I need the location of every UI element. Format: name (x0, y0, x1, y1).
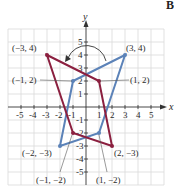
x-axis-label: x (168, 101, 174, 112)
svg-text:5: 5 (149, 110, 154, 120)
label-neg1-2: (−1, 2) (12, 75, 37, 85)
x-tick-labels: -5 -4 -3 -2 -1 1 2 3 4 5 (16, 110, 154, 120)
rotation-arrow-icon (68, 46, 106, 61)
svg-text:-1: -1 (76, 115, 84, 125)
svg-text:4: 4 (136, 110, 141, 120)
blue-quadrilateral (60, 55, 125, 146)
svg-text:1: 1 (97, 110, 102, 120)
label-1-2: (1, 2) (130, 75, 150, 85)
label-neg2-neg3: (−2, −3) (22, 148, 52, 158)
label-neg1-neg2: (−1, −2) (36, 175, 66, 185)
svg-text:4: 4 (78, 50, 83, 60)
figure-corner-letter: B (166, 0, 174, 12)
svg-text:3: 3 (123, 110, 128, 120)
x-axis-arrow-icon (160, 105, 167, 110)
rotation-arrowhead-icon (65, 55, 71, 62)
label-neg3-4: (−3, 4) (12, 43, 37, 53)
label-3-4: (3, 4) (126, 43, 146, 53)
label-2-neg3: (2, −3) (114, 148, 139, 158)
svg-text:1: 1 (78, 89, 83, 99)
svg-text:-4: -4 (76, 154, 84, 164)
svg-text:-3: -3 (42, 110, 50, 120)
y-axis-label: y (82, 11, 88, 22)
svg-text:-4: -4 (29, 110, 37, 120)
label-1-neg2: (1, −2) (96, 175, 121, 185)
coordinate-plane-diagram: x y -5 -4 -3 -2 -1 1 2 3 4 5 5 4 3 2 1 -… (0, 0, 174, 190)
svg-text:5: 5 (78, 37, 83, 47)
svg-text:2: 2 (110, 110, 115, 120)
svg-text:-5: -5 (16, 110, 24, 120)
svg-text:-5: -5 (76, 167, 84, 177)
svg-text:-2: -2 (55, 110, 63, 120)
svg-text:-3: -3 (76, 141, 84, 151)
